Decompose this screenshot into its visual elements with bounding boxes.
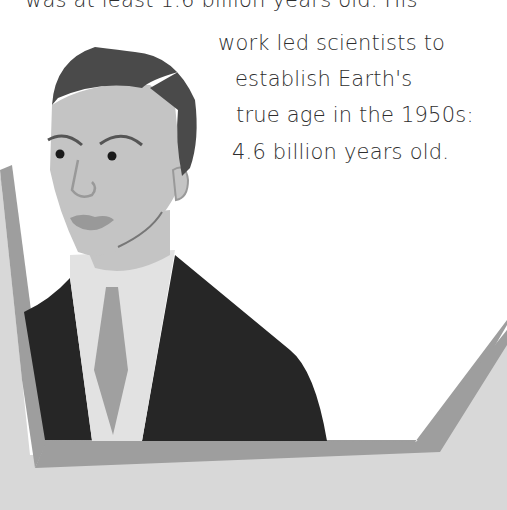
caption-line-4: true age in the 1950s:: [236, 105, 474, 126]
illustration: was at least 1.6 billion years old. His …: [0, 0, 507, 510]
ear: [173, 168, 188, 200]
caption-line-5: 4.6 billion years old.: [232, 142, 449, 163]
caption-line-1: was at least 1.6 billion years old. His: [25, 0, 418, 11]
suit-jacket-right: [142, 255, 327, 441]
eye-left-icon: [56, 150, 65, 159]
caption-line-3: establish Earth's: [235, 69, 412, 90]
caption-line-2: work led scientists to: [218, 33, 445, 54]
eye-right-icon: [108, 152, 117, 161]
